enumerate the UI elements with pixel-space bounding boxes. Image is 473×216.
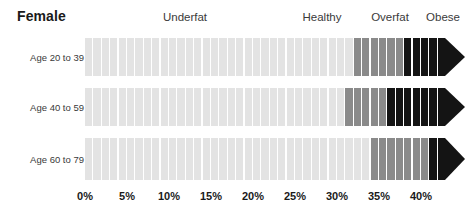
axis-tick-label: 25% [284, 190, 306, 202]
bar-segment [303, 138, 310, 180]
bar-segment [127, 38, 134, 76]
bar-segment [337, 88, 344, 126]
bar-segment [161, 38, 168, 76]
bar-segment [211, 138, 218, 180]
bar-segment [387, 88, 394, 126]
bar-segment [203, 138, 210, 180]
bar-segment [261, 88, 268, 126]
bar-segment [421, 88, 428, 126]
bar-segment [186, 138, 193, 180]
bar-arrow-head [445, 38, 465, 76]
bar-segment [169, 88, 176, 126]
bar-segment [203, 38, 210, 76]
bar-segment [287, 88, 294, 126]
bar-segment [362, 38, 369, 76]
row-label-2: Age 40 to 59 [30, 102, 84, 113]
bar-segment [236, 38, 243, 76]
table-row [85, 38, 446, 76]
bar-segment [186, 38, 193, 76]
row-label-3: Age 60 to 79 [30, 154, 84, 165]
category-header-healthy: Healthy [303, 11, 342, 23]
bar-segment [127, 88, 134, 126]
bar-segment [329, 38, 336, 76]
bar-segment [135, 138, 142, 180]
bar-segment [396, 88, 403, 126]
bar-segment [320, 88, 327, 126]
bar-segment [278, 138, 285, 180]
bar-segment [110, 88, 117, 126]
bar-segment [219, 38, 226, 76]
axis-tick-label: 30% [326, 190, 348, 202]
bar-segment [93, 38, 100, 76]
bar-segment [354, 138, 361, 180]
bar-segment [186, 88, 193, 126]
bar-segment [345, 138, 352, 180]
bar-segment [421, 38, 428, 76]
bar-segment [169, 138, 176, 180]
bar-segment [102, 138, 109, 180]
bar-segment [102, 88, 109, 126]
bar-segment [404, 88, 411, 126]
bar-segment [110, 38, 117, 76]
bar-segment [228, 138, 235, 180]
bar-segment [253, 38, 260, 76]
bar-segment [135, 88, 142, 126]
axis-tick-label: 20% [242, 190, 264, 202]
bar-segment [429, 88, 436, 126]
table-row [85, 88, 446, 126]
bar-segment [387, 138, 394, 180]
bar-segment [278, 38, 285, 76]
category-header-overfat: Overfat [371, 11, 409, 23]
bar-segment [144, 38, 151, 76]
bar-segment [354, 88, 361, 126]
bar-segment [119, 138, 126, 180]
bar-segment [404, 138, 411, 180]
bar-segment [119, 88, 126, 126]
table-row [85, 138, 446, 180]
bar-segment [102, 38, 109, 76]
bar-segment [396, 138, 403, 180]
bar-segment [177, 138, 184, 180]
bar-segment [194, 38, 201, 76]
bar-segment [253, 138, 260, 180]
bar-segment [371, 138, 378, 180]
bar-segment [371, 88, 378, 126]
bar-segment [85, 138, 92, 180]
page-title: Female [17, 8, 66, 24]
bar-segment [295, 138, 302, 180]
bar-arrow-head [445, 88, 465, 126]
bar-segment [161, 138, 168, 180]
bar-segment [211, 38, 218, 76]
bar-segment [194, 138, 201, 180]
bar-segment [85, 88, 92, 126]
bar-segment [303, 88, 310, 126]
bar-segment [261, 138, 268, 180]
bar-segment [93, 138, 100, 180]
bar-segment [379, 138, 386, 180]
bar-segment [119, 38, 126, 76]
bar-segment [438, 88, 445, 126]
bar-segment [429, 38, 436, 76]
bar-segment [169, 38, 176, 76]
bar-segment [379, 88, 386, 126]
bar-segment [270, 38, 277, 76]
axis-tick-label: 10% [158, 190, 180, 202]
bar-segment [396, 38, 403, 76]
bar-segment [404, 38, 411, 76]
bar-segment [354, 38, 361, 76]
bar-segment [312, 38, 319, 76]
bar-segment [203, 88, 210, 126]
bar-segment [270, 138, 277, 180]
bar-segment [161, 88, 168, 126]
bar-segment [152, 38, 159, 76]
bar-segment [312, 88, 319, 126]
bar-segment [287, 138, 294, 180]
bar-segment [245, 138, 252, 180]
axis-tick-label: 5% [119, 190, 135, 202]
bar-segment [110, 138, 117, 180]
bar-segment [236, 88, 243, 126]
category-header-obese: Obese [426, 11, 460, 23]
bar-segment [135, 38, 142, 76]
bar-segment [312, 138, 319, 180]
bar-segment [219, 138, 226, 180]
